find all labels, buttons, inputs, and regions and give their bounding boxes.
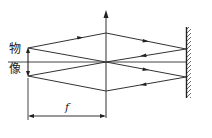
arrow-right-icon — [142, 67, 149, 71]
object-label: 物 — [9, 43, 21, 55]
reflected-rays — [28, 49, 186, 91]
arrow-right-icon — [77, 36, 83, 40]
image-arrow — [26, 62, 30, 77]
image-label: 像 — [9, 63, 21, 75]
lens-arrowhead-icon — [104, 10, 109, 18]
focal-length-label: f — [65, 102, 69, 113]
incident-rays — [28, 33, 186, 77]
arrow-left-icon — [140, 83, 147, 87]
focal-length-dimension — [28, 114, 106, 118]
object-arrow — [26, 47, 30, 62]
optics-diagram — [0, 0, 212, 138]
plane-mirror — [187, 27, 192, 98]
arrow-right-icon — [142, 39, 149, 43]
dimension-arrow-right-icon — [100, 114, 106, 118]
dimension-arrow-left-icon — [28, 114, 34, 118]
lens — [104, 10, 109, 118]
